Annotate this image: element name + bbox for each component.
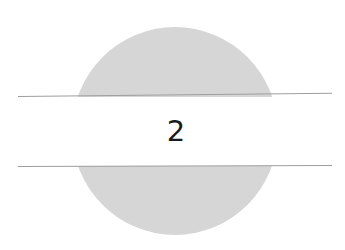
number-label: 2 <box>0 114 345 148</box>
